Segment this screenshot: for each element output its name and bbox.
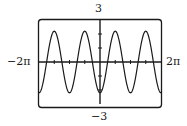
x-min-label: −2π — [7, 56, 30, 68]
y-min-label: −3 — [91, 111, 107, 123]
y-max-label: 3 — [95, 3, 102, 15]
x-max-label: 2π — [166, 56, 180, 68]
axes — [39, 20, 161, 104]
